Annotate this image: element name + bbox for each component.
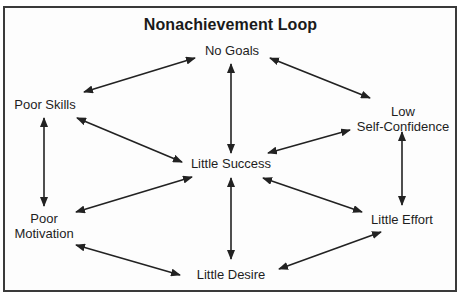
arrow-no-goals-low-self-confidence: [270, 58, 370, 98]
node-low-self-confidence: Low Self-Confidence: [350, 104, 456, 134]
node-no-goals: No Goals: [196, 43, 268, 58]
node-little-success: Little Success: [184, 156, 278, 171]
diagram-title: Nonachievement Loop: [0, 16, 461, 34]
node-poor-motivation-line2: Motivation: [8, 226, 80, 241]
node-low-self-confidence-line1: Low: [350, 104, 456, 119]
arrow-little-desire-little-effort: [279, 232, 381, 269]
arrow-poor-motivation-little-success: [76, 177, 192, 212]
node-poor-skills: Poor Skills: [10, 97, 80, 112]
arrow-little-success-little-effort: [263, 178, 362, 212]
node-poor-motivation-line1: Poor: [8, 211, 80, 226]
node-poor-motivation: Poor Motivation: [8, 211, 80, 241]
arrow-poor-motivation-little-desire: [76, 245, 180, 275]
node-little-effort: Little Effort: [364, 212, 440, 227]
arrow-poor-skills-little-success: [77, 118, 182, 162]
arrow-low-self-confidence-little-success: [268, 130, 350, 153]
node-low-self-confidence-line2: Self-Confidence: [350, 119, 456, 134]
node-little-desire: Little Desire: [188, 267, 274, 282]
arrow-no-goals-poor-skills: [84, 58, 195, 92]
